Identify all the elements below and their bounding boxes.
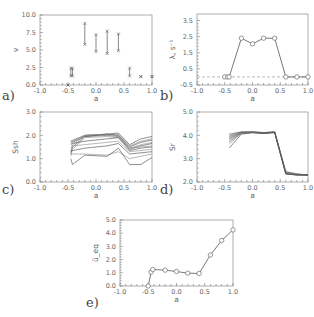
y-tick-label: 3.0 — [106, 243, 116, 251]
y-axis-label: ū_eq — [91, 244, 100, 262]
panel-b: -1.0-0.50.00.51.0-0.50.51.52.53.5aλ, s⁻¹ — [168, 14, 313, 103]
x-axis-label: a — [174, 295, 179, 304]
y-tick-label: 1.0 — [106, 269, 116, 277]
panel-e: -1.0-0.50.00.51.00.01.02.03.04.05.0aū_eq — [91, 216, 238, 304]
x-tick-label: 1.0 — [228, 288, 238, 296]
y-tick-label: 2.0 — [106, 256, 116, 264]
y-axis-label: Sr — [168, 142, 177, 151]
data-line — [225, 38, 308, 77]
circle-marker — [163, 268, 167, 272]
x-tick-label: -0.5 — [218, 87, 231, 95]
y-tick-label: 1.0 — [26, 155, 36, 163]
panel-c: -1.0-0.50.00.51.00.01.02.03.0aSsh — [11, 108, 157, 200]
y-axis-label: Ssh — [11, 140, 20, 154]
y-tick-label: 0.5 — [183, 65, 193, 73]
x-tick-label: 0.5 — [275, 87, 285, 95]
y-tick-label: 0.0 — [26, 178, 36, 186]
series-line — [229, 132, 308, 175]
plot-frame — [197, 112, 308, 182]
y-tick-label: 3.0 — [183, 155, 193, 163]
series-line — [229, 133, 308, 175]
x-tick-label: 1.0 — [147, 184, 157, 192]
circle-marker — [261, 36, 265, 40]
x-tick-label: -0.5 — [62, 184, 75, 192]
y-tick-label: 1.5 — [183, 49, 193, 57]
circle-marker — [295, 75, 299, 79]
circle-marker — [186, 271, 190, 275]
panel-label-d: d) — [160, 182, 173, 197]
x-tick-label: 1.0 — [303, 87, 313, 95]
circle-marker — [306, 75, 310, 79]
circle-marker — [231, 228, 235, 232]
x-tick-label: 0.5 — [200, 288, 210, 296]
panel-label-e: e) — [86, 295, 99, 310]
y-tick-label: 2.5 — [183, 33, 193, 41]
x-tick-label: 1.0 — [303, 184, 313, 192]
y-tick-label: 2.0 — [26, 132, 36, 140]
y-tick-label: 0.0 — [26, 81, 36, 89]
y-tick-label: 4.0 — [183, 132, 193, 140]
circle-marker — [174, 269, 178, 273]
y-tick-label: 4.0 — [106, 229, 116, 237]
circle-marker — [273, 36, 277, 40]
panel-label-a: a) — [2, 88, 15, 103]
series-line — [229, 132, 308, 175]
y-axis-label: λ, s⁻¹ — [168, 39, 177, 59]
y-axis-label: ν — [11, 48, 20, 52]
x-axis-label: a — [94, 94, 99, 103]
x-tick-label: 0.5 — [275, 184, 285, 192]
x-axis-label: a — [250, 191, 255, 200]
x-axis-label: a — [94, 191, 99, 200]
plot-canvas: -1.0-0.50.00.51.00.02.55.07.510.0aν-1.0-… — [0, 0, 314, 317]
x-tick-label: -0.5 — [218, 184, 231, 192]
plot-frame — [197, 14, 308, 85]
circle-marker — [151, 267, 155, 271]
x-tick-label: -0.5 — [62, 87, 75, 95]
y-tick-label: 3.0 — [26, 108, 36, 116]
series-line — [229, 133, 308, 175]
x-axis-label: a — [250, 94, 255, 103]
panel-label-c: c) — [2, 182, 14, 197]
circle-marker — [220, 238, 224, 242]
series-line — [229, 132, 308, 175]
x-tick-label: 0.5 — [119, 184, 129, 192]
y-tick-label: 7.5 — [26, 29, 36, 37]
x-tick-label: 0.5 — [119, 87, 129, 95]
y-tick-label: 10.0 — [22, 11, 36, 19]
series-line — [229, 132, 308, 175]
y-tick-label: 5.0 — [106, 216, 116, 224]
panel-d: -1.0-0.50.00.51.02.03.04.05.0aSr — [168, 108, 313, 200]
series-line — [229, 132, 308, 175]
circle-marker — [208, 253, 212, 257]
y-tick-label: 2.0 — [183, 178, 193, 186]
y-tick-label: 5.0 — [26, 46, 36, 54]
series-line — [229, 132, 308, 175]
x-tick-label: 1.0 — [147, 87, 157, 95]
figure: -1.0-0.50.00.51.00.02.55.07.510.0aν-1.0-… — [0, 0, 314, 317]
series-line — [229, 133, 308, 175]
x-tick-label: -0.5 — [142, 288, 155, 296]
y-tick-label: 5.0 — [183, 108, 193, 116]
y-tick-label: 2.5 — [26, 64, 36, 72]
y-tick-label: 0.0 — [106, 282, 116, 290]
circle-marker — [239, 36, 243, 40]
circle-marker — [284, 75, 288, 79]
y-tick-label: -0.5 — [180, 81, 193, 89]
circle-marker — [250, 42, 254, 46]
panel-a: -1.0-0.50.00.51.00.02.55.07.510.0aν — [11, 11, 157, 103]
panel-label-b: b) — [160, 88, 173, 103]
circle-marker — [197, 271, 201, 275]
y-tick-label: 3.5 — [183, 17, 193, 25]
data-line — [148, 230, 233, 286]
circle-marker — [146, 284, 150, 288]
plot-frame — [120, 220, 233, 286]
circle-marker — [227, 75, 231, 79]
